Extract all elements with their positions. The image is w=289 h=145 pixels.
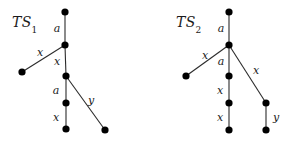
diagram-title-ts2: TS2 xyxy=(176,14,202,33)
edge-x-right xyxy=(229,45,266,103)
figure-canvas: TS1axxaxyTS2axaxxxy xyxy=(0,0,289,145)
diagram-title-text: TS xyxy=(176,14,196,30)
node-leaf-right xyxy=(262,126,269,133)
tree-graphics-ts2 xyxy=(0,0,289,145)
node-mid-node-2 xyxy=(225,99,232,106)
tree-ts2: TS2axaxxxy xyxy=(0,0,289,145)
node-leaf-bottom xyxy=(225,126,232,133)
edge-label-x-edge-x-trunk-1: x xyxy=(217,84,223,97)
node-mid-node-1 xyxy=(225,72,232,79)
edge-label-a-edge-a-root: a xyxy=(218,22,225,35)
edge-label-a-edge-a-trunk: a xyxy=(218,55,225,68)
diagram-title-subscript: 2 xyxy=(196,25,202,35)
node-junction-1 xyxy=(225,41,232,48)
edge-label-x-edge-x-right: x xyxy=(253,64,259,77)
edge-label-x-edge-x-trunk-2: x xyxy=(217,111,223,124)
node-right-node xyxy=(262,99,269,106)
edge-label-y-edge-y-right: y xyxy=(273,111,279,124)
node-root xyxy=(225,8,232,15)
edge-label-x-edge-x-left: x xyxy=(202,49,208,62)
node-leaf-left xyxy=(182,72,189,79)
